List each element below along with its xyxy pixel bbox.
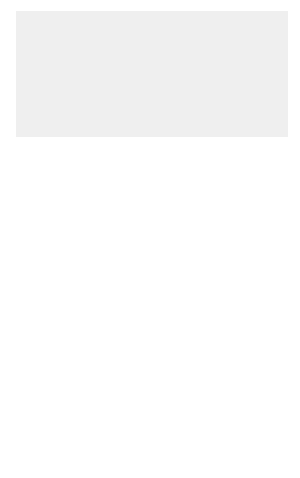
lymphatic-diagram [0,0,300,478]
